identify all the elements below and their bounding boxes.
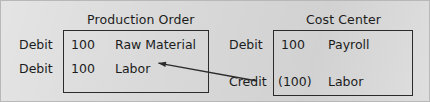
cost-center-row-0-side-label: Debit	[229, 37, 263, 52]
production-order-row-0-amount: 100	[71, 37, 95, 52]
production-order-row-1-side-label: Debit	[19, 61, 53, 76]
t-account-diagram: Production Order Cost Center Debit 100 R…	[0, 0, 430, 102]
cost-center-row-0-amount: 100	[281, 37, 305, 52]
cost-center-row-0-account: Payroll	[328, 37, 370, 52]
production-order-row-1-account: Labor	[115, 61, 150, 76]
production-order-title: Production Order	[87, 12, 195, 27]
cost-center-row-1-account: Labor	[328, 74, 363, 89]
production-order-row-0-side-label: Debit	[19, 37, 53, 52]
cost-center-row-1-side-label: Credit	[229, 74, 267, 89]
production-order-row-0-account: Raw Material	[115, 37, 196, 52]
cost-center-row-1-amount: (100)	[278, 74, 312, 89]
production-order-row-1-amount: 100	[71, 61, 95, 76]
cost-center-title: Cost Center	[306, 12, 381, 27]
